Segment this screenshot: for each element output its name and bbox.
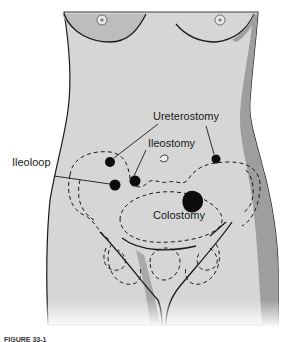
label-ileostomy: Ileostomy <box>148 137 196 149</box>
label-ureterostomy: Ureterostomy <box>153 110 220 122</box>
stoma-ileostomy <box>130 176 141 187</box>
navel <box>160 155 168 162</box>
top-fade <box>0 0 285 14</box>
stoma-ureterostomy-left <box>105 157 115 167</box>
torso-body <box>47 12 278 325</box>
label-ileoloop: Ileoloop <box>12 156 51 168</box>
bottom-fade <box>0 300 285 328</box>
stoma-sites-diagram: Ureterostomy Ileostomy Ileoloop Colostom… <box>0 0 285 342</box>
stoma-ureterostomy-right <box>212 155 221 164</box>
label-colostomy: Colostomy <box>153 209 205 221</box>
stoma-ileoloop <box>110 180 121 191</box>
figure-caption: FIGURE 33-1 <box>4 336 47 342</box>
